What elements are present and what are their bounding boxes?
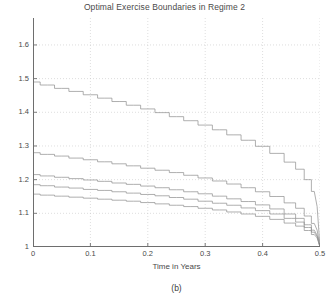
- y-tick-label: 1.5: [19, 75, 29, 83]
- chart-title: Optimal Exercise Boundaries in Regime 2: [0, 2, 329, 12]
- boundary-curve: [33, 82, 320, 247]
- x-axis-label: Time in Years: [33, 262, 320, 271]
- x-tick-label: 0.4: [251, 250, 275, 258]
- boundary-curve: [33, 194, 320, 247]
- axis-lines: [33, 18, 320, 247]
- boundary-curve: [33, 185, 320, 247]
- figure-panel: Optimal Exercise Boundaries in Regime 2 …: [0, 0, 329, 298]
- x-tick-label: 0.5: [308, 250, 329, 258]
- y-tick-label: 1.6: [19, 41, 29, 49]
- plot-area: [33, 18, 320, 247]
- x-tick-label: 0.3: [193, 250, 217, 258]
- y-tick-label: 1.4: [19, 108, 29, 116]
- chart-canvas: [33, 18, 320, 247]
- boundary-curve: [33, 153, 320, 247]
- y-tick-label: 1.2: [19, 176, 29, 184]
- gridlines: [33, 18, 320, 247]
- x-tick-label: 0.2: [136, 250, 160, 258]
- panel-caption: (b): [33, 283, 320, 293]
- y-tick-label: 1.3: [19, 142, 29, 150]
- data-curves: [33, 82, 320, 247]
- x-tick-label: 0: [21, 250, 45, 258]
- x-tick-label: 0.1: [78, 250, 102, 258]
- x-axis-tick-labels: 00.10.20.30.40.5: [33, 250, 320, 262]
- boundary-curve: [33, 175, 320, 247]
- y-tick-label: 1.1: [19, 209, 29, 217]
